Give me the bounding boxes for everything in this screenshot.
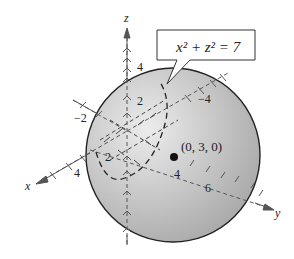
x-tick-4: 4: [74, 166, 80, 180]
z-tick-4: 4: [137, 60, 143, 74]
point-marker: [170, 153, 178, 161]
x-tick-2: 2: [105, 150, 111, 164]
y-tick-6: 6: [205, 181, 211, 195]
point-label: (0, 3, 0): [181, 139, 222, 154]
y-tick-4: 4: [174, 167, 180, 181]
y-tick-neg4: −4: [198, 92, 211, 106]
y-axis-label: y: [274, 206, 281, 220]
neg-x-tick: −2: [74, 111, 87, 125]
sphere-figure: x² + z² = 7 (0, 3, 0) z 4 2 x 4 2 −2 y −…: [0, 0, 294, 259]
z-tick-2: 2: [137, 94, 143, 108]
z-axis-label: z: [123, 11, 129, 25]
x-axis-label: x: [24, 179, 31, 193]
callout-equation: x² + z² = 7: [175, 39, 242, 55]
